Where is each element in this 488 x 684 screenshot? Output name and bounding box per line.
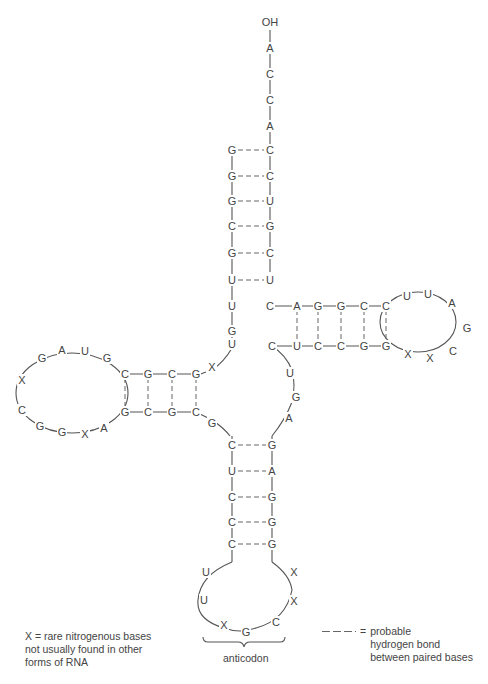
anticodon-label: anticodon <box>223 652 269 664</box>
anticodon-brace <box>0 0 488 684</box>
